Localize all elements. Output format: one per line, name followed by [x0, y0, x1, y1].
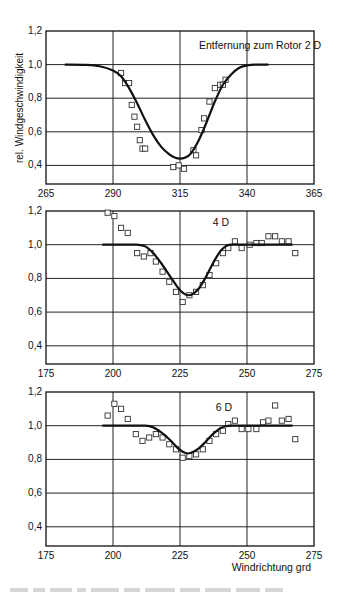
- data-marker-square: [171, 164, 176, 169]
- data-marker-square: [193, 153, 198, 158]
- x-tick-label: 290: [105, 188, 122, 199]
- data-marker-square: [167, 279, 172, 284]
- y-axis-label: rel. Windgeschwindigkeit: [14, 53, 25, 163]
- data-marker-square: [239, 426, 244, 431]
- data-marker-square: [286, 416, 291, 421]
- y-tick-label: 0,8: [28, 272, 42, 283]
- x-axis-label: Windrichtung grd: [232, 561, 312, 573]
- data-marker-square: [273, 234, 278, 239]
- data-marker-square: [273, 403, 278, 408]
- model-curve: [65, 65, 269, 159]
- x-tick-label: 250: [239, 550, 256, 561]
- y-tick-label: 0,6: [28, 306, 42, 317]
- y-tick-label: 0,8: [28, 453, 42, 464]
- chart-panel-4d: 0,40,60,81,01,21752002252502754 D: [28, 205, 323, 379]
- data-marker-square: [239, 245, 244, 250]
- data-marker-square: [133, 432, 138, 437]
- panel-annotation: 6 D: [216, 401, 233, 413]
- data-marker-square: [232, 239, 237, 244]
- x-tick-label: 225: [172, 550, 189, 561]
- x-tick-label: 250: [239, 368, 256, 379]
- x-tick-label: 340: [239, 188, 256, 199]
- y-tick-label: 0,6: [28, 126, 42, 137]
- x-tick-label: 200: [105, 368, 122, 379]
- data-marker-square: [266, 234, 271, 239]
- y-tick-label: 1,2: [28, 25, 42, 36]
- data-marker-square: [118, 225, 123, 230]
- data-marker-square: [266, 418, 271, 423]
- data-marker-square: [279, 418, 284, 423]
- data-marker-square: [207, 99, 212, 104]
- data-marker-square: [254, 426, 259, 431]
- x-tick-label: 265: [38, 188, 55, 199]
- panel-annotation: Entfernung zum Rotor 2 D: [199, 39, 321, 51]
- y-tick-label: 1,0: [28, 239, 42, 250]
- y-tick-label: 1,2: [28, 205, 42, 216]
- data-marker-square: [135, 251, 140, 256]
- data-marker-square: [160, 269, 165, 274]
- data-marker-square: [180, 299, 185, 304]
- data-marker-square: [132, 114, 137, 119]
- y-tick-label: 1,0: [28, 59, 42, 70]
- x-tick-label: 175: [38, 368, 55, 379]
- data-marker-square: [279, 239, 284, 244]
- data-marker-square: [293, 437, 298, 442]
- panel-annotation: 4 D: [213, 216, 230, 228]
- data-marker-square: [180, 455, 185, 460]
- x-tick-label: 175: [38, 550, 55, 561]
- data-marker-square: [141, 254, 146, 259]
- x-tick-label: 200: [105, 550, 122, 561]
- model-curve: [102, 245, 292, 296]
- x-tick-label: 315: [172, 188, 189, 199]
- data-marker-square: [176, 163, 181, 168]
- data-marker-square: [137, 138, 142, 143]
- data-marker-square: [125, 230, 130, 235]
- data-marker-square: [143, 146, 148, 151]
- x-tick-label: 275: [306, 550, 323, 561]
- data-marker-square: [125, 416, 130, 421]
- y-tick-label: 1,2: [28, 386, 42, 397]
- x-tick-label: 225: [172, 368, 189, 379]
- chart-panel-6d: 0,40,60,81,01,21752002252502756 D: [28, 386, 323, 561]
- data-marker-square: [153, 432, 158, 437]
- data-marker-square: [181, 166, 186, 171]
- y-tick-label: 0,8: [28, 92, 42, 103]
- data-marker-square: [135, 124, 140, 129]
- figure-caption-illegible: [10, 579, 330, 585]
- data-marker-square: [173, 289, 178, 294]
- x-tick-label: 365: [306, 188, 323, 199]
- model-curve: [102, 426, 292, 454]
- data-marker-square: [212, 86, 217, 91]
- data-marker-square: [147, 435, 152, 440]
- data-marker-square: [140, 438, 145, 443]
- data-marker-square: [112, 213, 117, 218]
- data-marker-square: [129, 102, 134, 107]
- data-marker-square: [105, 210, 110, 215]
- chart-panel-2d: 0,40,60,81,01,2265290315340365Entfernung…: [28, 25, 323, 199]
- data-marker-square: [246, 426, 251, 431]
- data-marker-square: [232, 418, 237, 423]
- data-marker-square: [293, 251, 298, 256]
- data-marker-square: [118, 406, 123, 411]
- figure: 0,40,60,81,01,2265290315340365Entfernung…: [0, 0, 337, 595]
- y-tick-label: 0,4: [28, 159, 42, 170]
- y-tick-label: 1,0: [28, 420, 42, 431]
- y-tick-label: 0,4: [28, 521, 42, 532]
- data-marker-square: [202, 116, 207, 121]
- data-marker-square: [112, 401, 117, 406]
- data-marker-square: [260, 420, 265, 425]
- y-tick-label: 0,4: [28, 340, 42, 351]
- y-tick-label: 0,6: [28, 487, 42, 498]
- data-marker-square: [105, 413, 110, 418]
- x-tick-label: 275: [306, 368, 323, 379]
- data-marker-square: [286, 239, 291, 244]
